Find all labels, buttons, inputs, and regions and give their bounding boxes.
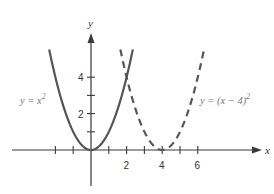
plot-canvas: x y 2 4 6 2 4 y = x2 y = (x − 4)2 xyxy=(0,0,274,194)
y-tick-label-2: 2 xyxy=(78,109,84,120)
x-tick-label-6: 6 xyxy=(195,160,201,171)
eq2-text: y = (x − 4) xyxy=(199,95,247,107)
eq1-text: y = x xyxy=(19,95,42,106)
eq1-exponent: 2 xyxy=(42,92,46,101)
x-axis-label: x xyxy=(264,144,270,156)
parabola-translation-diagram: x y 2 4 6 2 4 y = x2 y = (x − 4)2 xyxy=(0,0,274,194)
parabola-y-equals-x-minus-4-squared xyxy=(120,49,204,150)
equation-label-x-squared: y = x2 xyxy=(19,92,46,106)
y-axis-arrow-icon xyxy=(88,33,95,43)
x-tick-label-4: 4 xyxy=(159,160,165,171)
y-tick-label-4: 4 xyxy=(78,72,84,83)
equation-label-shifted: y = (x − 4)2 xyxy=(199,92,250,107)
x-tick-label-2: 2 xyxy=(124,160,130,171)
x-axis-arrow-icon xyxy=(252,147,262,154)
eq2-exponent: 2 xyxy=(246,92,250,101)
y-axis-label: y xyxy=(87,17,93,29)
